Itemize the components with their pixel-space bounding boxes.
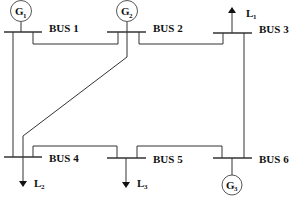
load-l3-sub: 3 — [144, 183, 148, 191]
generator-g2: G 2 — [117, 1, 138, 33]
generator-g3-sub: 3 — [234, 185, 238, 193]
generator-g2-sub: 2 — [129, 12, 133, 20]
bus-1-label: BUS 1 — [49, 22, 79, 34]
bus-5-label: BUS 5 — [153, 153, 183, 165]
power-system-diagram: G 1 G 2 BUS 1 BUS 2 BUS 3 BUS 4 BUS 5 BU… — [0, 0, 289, 199]
load-l1-sub: 1 — [253, 13, 257, 21]
bus-3-label: BUS 3 — [259, 23, 289, 35]
generator-g1: G 1 — [11, 1, 32, 33]
load-l3: L 3 — [126, 158, 148, 191]
generator-g1-sub: 1 — [23, 12, 27, 20]
bus-2-label: BUS 2 — [153, 22, 183, 34]
load-l2-sub: 2 — [41, 183, 45, 191]
load-l1: L 1 — [232, 7, 257, 33]
bus-4-label: BUS 4 — [49, 152, 79, 164]
line-bus2-bus4 — [23, 32, 127, 157]
load-l2: L 2 — [23, 157, 45, 191]
bus-6-label: BUS 6 — [259, 153, 289, 165]
generator-g3: G 3 — [222, 158, 242, 195]
